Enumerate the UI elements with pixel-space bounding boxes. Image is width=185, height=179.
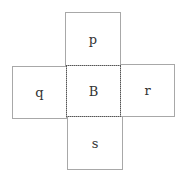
face-label-r: r (144, 84, 150, 97)
face-right-r: r (120, 64, 175, 117)
face-bottom-s: s (67, 116, 123, 170)
face-center-b: B (66, 65, 121, 117)
face-label-s: s (92, 137, 99, 150)
face-label-b: B (89, 85, 99, 98)
face-top-p: p (65, 12, 121, 66)
face-left-q: q (12, 66, 67, 119)
face-label-q: q (35, 86, 43, 99)
face-label-p: p (89, 33, 97, 46)
